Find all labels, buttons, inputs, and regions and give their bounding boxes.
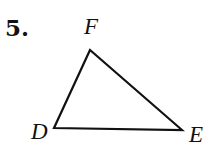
vertex-label-e: E <box>189 122 203 148</box>
vertex-label-d: D <box>31 119 48 145</box>
vertex-label-f: F <box>84 14 98 40</box>
